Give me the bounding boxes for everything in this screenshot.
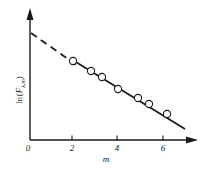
x-axis-title: m xyxy=(96,154,116,164)
x-tick-label-0: 0 xyxy=(21,143,35,153)
data-point xyxy=(87,67,94,74)
y-axis-title-function: ln xyxy=(14,97,24,104)
y-axis-arrowhead xyxy=(27,8,34,20)
y-axis-title-open-paren: ( xyxy=(14,93,24,96)
data-point xyxy=(114,85,121,92)
y-axis-title: ln (Fλ,m) xyxy=(14,76,28,104)
data-point xyxy=(98,73,105,80)
chart-figure: 0 2 4 6 m ln (Fλ,m) xyxy=(0,0,208,174)
data-point xyxy=(145,100,152,107)
log-flux-axis xyxy=(27,8,34,140)
x-tick-label-4: 4 xyxy=(110,143,124,153)
x-axis-arrowhead xyxy=(186,137,198,144)
y-axis-title-close-paren: ) xyxy=(14,76,24,79)
x-tick-label-6: 6 xyxy=(156,143,170,153)
data-point xyxy=(69,57,76,64)
y-axis-title-variable: F xyxy=(14,88,24,94)
data-point xyxy=(134,94,141,101)
data-point xyxy=(163,110,170,117)
x-tick-label-2: 2 xyxy=(65,143,79,153)
y-axis-title-subscript: λ,m xyxy=(20,79,26,87)
